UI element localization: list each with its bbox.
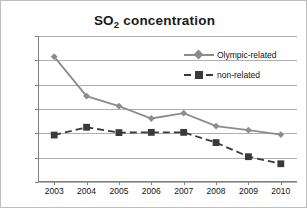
chart-legend: Olympic-related non-related — [184, 45, 302, 85]
legend-key-diamond-icon — [184, 49, 214, 61]
x-axis-tick-label: 2004 — [77, 186, 96, 196]
x-axis-tick-label: 2010 — [271, 186, 290, 196]
data-point-marker — [116, 103, 123, 110]
x-axis-tick-label: 2008 — [207, 186, 226, 196]
data-point-marker — [245, 127, 252, 134]
x-axis-tick-label: 2005 — [109, 186, 128, 196]
x-axis-tick-mark — [54, 182, 55, 185]
x-axis-tick-label: 2007 — [174, 186, 193, 196]
x-axis-tick-label: 2003 — [45, 186, 64, 196]
data-point-marker — [116, 129, 123, 136]
data-point-marker — [213, 123, 220, 130]
x-axis-tick-label: 2009 — [239, 186, 258, 196]
data-point-marker — [245, 153, 252, 160]
data-point-marker — [148, 115, 155, 122]
data-point-marker — [180, 129, 187, 136]
x-axis-tick-mark — [87, 182, 88, 185]
chart-title-subscript: 2 — [114, 19, 119, 30]
legend-item-olympic-related: Olympic-related — [184, 45, 302, 65]
chart-title-main: SO — [94, 13, 114, 28]
gridline — [38, 182, 297, 183]
data-point-marker — [148, 129, 155, 136]
x-axis-tick-mark — [184, 182, 185, 185]
legend-item-non-related: non-related — [184, 65, 302, 85]
y-axis-tick-mark — [35, 182, 38, 183]
x-axis-tick-mark — [151, 182, 152, 185]
legend-label-non-related: non-related — [217, 70, 260, 80]
data-point-marker — [213, 139, 220, 146]
data-point-marker — [277, 131, 284, 138]
x-axis-tick-mark — [281, 182, 282, 185]
x-axis-tick-mark — [216, 182, 217, 185]
chart-container: SO2 concentration 0.0900.0800.0700.0600.… — [0, 0, 307, 208]
chart-title: SO2 concentration — [1, 13, 307, 28]
data-point-marker — [83, 124, 90, 131]
chart-title-rest: concentration — [119, 13, 215, 28]
x-axis-tick-mark — [119, 182, 120, 185]
data-point-marker — [51, 132, 58, 139]
legend-label-olympic-related: Olympic-related — [217, 50, 277, 60]
data-point-marker — [180, 110, 187, 117]
data-point-marker — [277, 160, 284, 167]
x-axis-tick-mark — [248, 182, 249, 185]
x-axis-tick-label: 2006 — [142, 186, 161, 196]
legend-key-square-icon — [184, 69, 214, 81]
